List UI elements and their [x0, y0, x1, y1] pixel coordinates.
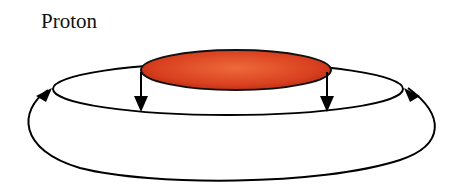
- outer-loop: [28, 88, 434, 181]
- proton-disk: [141, 50, 331, 90]
- down-arrow-left-icon: [134, 72, 148, 112]
- proton-field-diagram: [0, 0, 461, 191]
- up-arrow-left-icon: [36, 88, 52, 102]
